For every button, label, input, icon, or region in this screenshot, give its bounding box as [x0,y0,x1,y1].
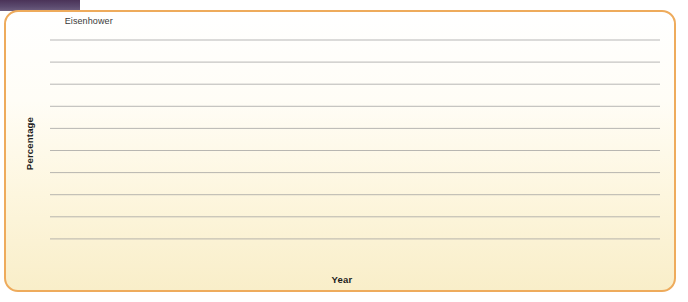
line-chart-svg [6,12,676,292]
page-header-text [300,0,688,9]
chart-panel: Eisenhower Percentage Year [4,10,676,292]
plot-area [6,12,676,292]
x-axis-title: Year [6,274,676,285]
y-axis-title: Percentage [24,99,35,189]
